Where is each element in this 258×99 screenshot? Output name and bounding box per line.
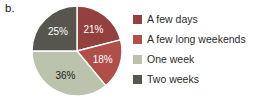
legend-swatch-icon bbox=[133, 55, 142, 64]
slice-percent-label: 18% bbox=[93, 54, 113, 65]
legend-swatch-icon bbox=[133, 35, 142, 44]
legend-label: One week bbox=[147, 54, 194, 65]
legend-item: One week bbox=[133, 54, 246, 65]
legend-swatch-icon bbox=[133, 75, 142, 84]
legend-item: A few long weekends bbox=[133, 34, 246, 45]
legend-swatch-icon bbox=[133, 15, 142, 24]
legend: A few daysA few long weekendsOne weekTwo… bbox=[133, 14, 246, 85]
legend-item: A few days bbox=[133, 14, 246, 25]
slice-percent-label: 21% bbox=[83, 24, 103, 35]
slice-percent-label: 36% bbox=[55, 70, 75, 81]
legend-label: A few long weekends bbox=[147, 34, 246, 45]
slice-percent-label: 25% bbox=[48, 26, 68, 37]
legend-label: A few days bbox=[147, 14, 198, 25]
figure-b-pie-chart: b. 21%18%36%25% A few daysA few long wee… bbox=[0, 0, 258, 99]
legend-item: Two weeks bbox=[133, 74, 246, 85]
legend-label: Two weeks bbox=[147, 74, 199, 85]
